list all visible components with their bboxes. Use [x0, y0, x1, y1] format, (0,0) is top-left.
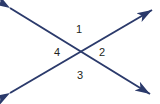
angle-label-4: 4: [54, 47, 60, 58]
intersecting-lines-diagram: 1 2 3 4: [0, 0, 160, 104]
diagram-canvas: [0, 0, 160, 104]
angle-label-2: 2: [99, 47, 105, 58]
angle-label-1: 1: [76, 24, 82, 35]
angle-label-3: 3: [77, 70, 83, 81]
